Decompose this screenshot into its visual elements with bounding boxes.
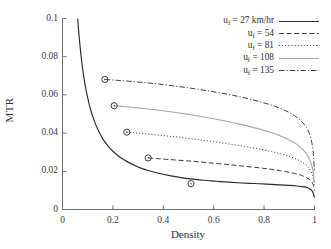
series-line-3	[114, 106, 314, 183]
legend-swatch	[278, 41, 320, 50]
x-tick-label: 0.2	[93, 216, 133, 226]
legend-entry-3: uf = 108	[196, 52, 320, 64]
series-marker-center-4	[104, 79, 105, 80]
x-axis-title: Density	[62, 228, 314, 240]
y-tick-label: 0.04	[10, 128, 58, 138]
legend-label: uf = 108	[243, 52, 278, 64]
chart-figure: 00.020.040.060.080.1 00.20.40.60.81 MTR …	[0, 0, 331, 249]
legend-entry-4: uf = 135	[196, 65, 320, 77]
legend-label: uf = 135	[243, 65, 278, 77]
legend-label: uf = 81	[248, 40, 278, 52]
y-tick-label: 0.1	[10, 14, 58, 24]
y-axis-title: MTR	[3, 88, 15, 132]
legend-entry-1: uf = 54	[196, 27, 320, 39]
y-tick-label: 0.08	[10, 52, 58, 62]
legend-swatch	[278, 17, 320, 26]
series-marker-center-2	[126, 131, 127, 132]
series-marker-center-1	[147, 157, 148, 158]
legend-swatch	[278, 66, 320, 75]
y-tick-label: 0.02	[10, 166, 58, 176]
series-line-4	[105, 79, 315, 171]
legend-entry-2: uf = 81	[196, 40, 320, 52]
legend-swatch	[278, 54, 320, 63]
x-tick-label: 0.4	[143, 216, 183, 226]
chart-legend: uf = 27 km/hruf = 54uf = 81uf = 108uf = …	[196, 15, 320, 77]
legend-label: uf = 54	[248, 28, 278, 40]
x-tick-label: 0.6	[194, 216, 234, 226]
legend-entry-0: uf = 27 km/hr	[196, 15, 320, 27]
y-tick-label: 0	[10, 205, 58, 215]
series-line-2	[127, 132, 315, 186]
x-tick-label: 0.8	[244, 216, 284, 226]
series-marker-center-3	[113, 105, 114, 106]
legend-label: uf = 27 km/hr	[223, 15, 278, 27]
legend-swatch	[278, 29, 320, 38]
y-tick-label: 0.06	[10, 90, 58, 100]
series-marker-center-0	[190, 183, 191, 184]
x-tick-label: 0	[43, 216, 83, 226]
x-tick-label: 1	[295, 216, 331, 226]
